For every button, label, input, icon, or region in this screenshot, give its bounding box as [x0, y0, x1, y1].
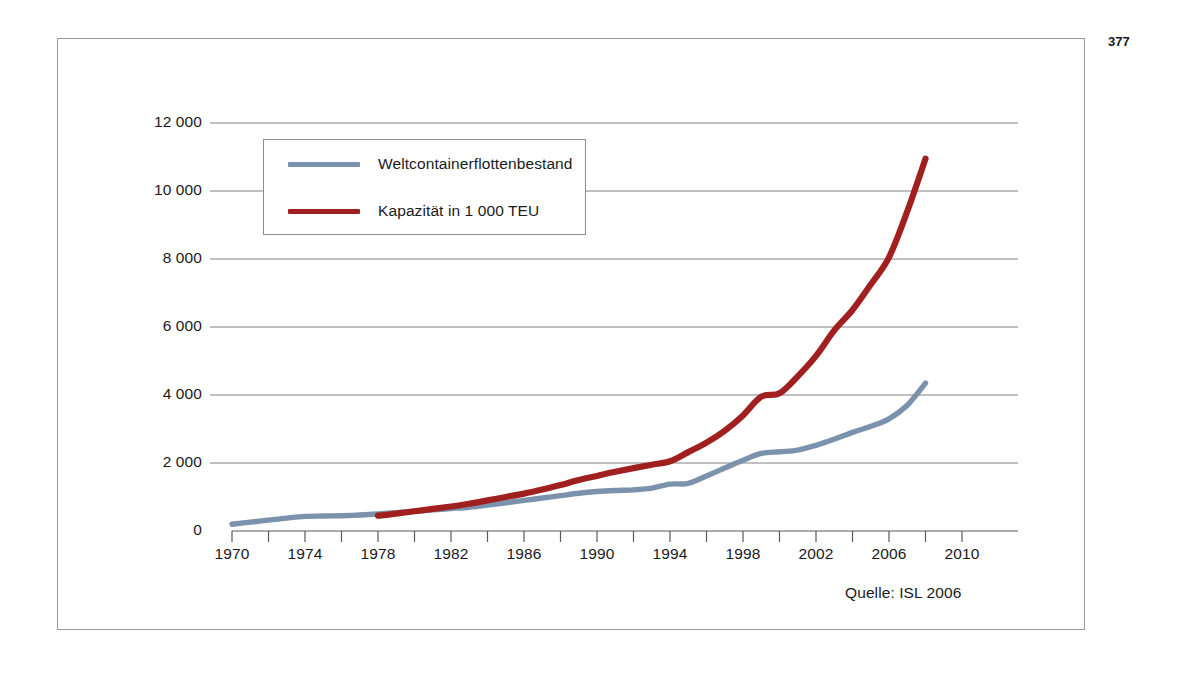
- y-tick-label: 2 000: [72, 453, 202, 471]
- source-note: Quelle: ISL 2006: [845, 584, 962, 602]
- chart-legend: Weltcontainerflottenbestand Kapazität in…: [263, 139, 586, 235]
- line-chart: [58, 39, 1086, 631]
- y-tick-label: 10 000: [72, 181, 202, 199]
- y-tick-label: 0: [72, 521, 202, 539]
- x-axis-ticks: [232, 531, 962, 542]
- legend-swatch-red: [288, 209, 360, 214]
- y-tick-label: 8 000: [72, 249, 202, 267]
- series-line-blue: [232, 383, 926, 524]
- x-tick-label: 2010: [917, 545, 1007, 563]
- legend-label-weltcontainerflottenbestand: Weltcontainerflottenbestand: [378, 155, 573, 173]
- page-number: 377: [1108, 34, 1130, 49]
- y-tick-label: 12 000: [72, 113, 202, 131]
- y-tick-label: 6 000: [72, 317, 202, 335]
- page-canvas: 377 02 0004 0006 0008 00010 00012 000 19…: [0, 0, 1185, 684]
- legend-item-kapazitaet: Kapazität in 1 000 TEU: [264, 187, 585, 235]
- legend-label-kapazitaet: Kapazität in 1 000 TEU: [378, 202, 539, 220]
- y-axis-ticks: [210, 123, 232, 463]
- legend-item-weltcontainerflottenbestand: Weltcontainerflottenbestand: [264, 140, 585, 188]
- figure-frame: 02 0004 0006 0008 00010 00012 000 197019…: [57, 38, 1085, 630]
- y-tick-label: 4 000: [72, 385, 202, 403]
- legend-swatch-blue: [288, 162, 360, 167]
